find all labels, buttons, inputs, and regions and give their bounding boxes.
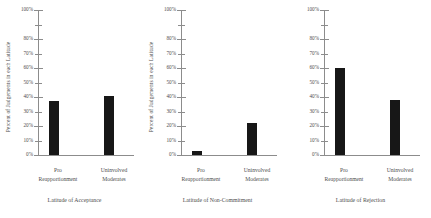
y-tick-label: 30% [166, 109, 176, 114]
y-tick-label: 60% [309, 65, 319, 70]
y-tick-mark [321, 25, 328, 26]
panel-caption-2: Latitude of Non-Commitment [149, 196, 286, 204]
category-label-line1: Uninvolved [244, 167, 270, 173]
category-label-line2: Reapportionment [30, 175, 86, 184]
y-tick-mark [35, 25, 42, 26]
y-tick-mark [320, 97, 329, 98]
y-tick-mark [321, 54, 328, 55]
y-tick-label: 20% [23, 123, 33, 128]
category-label-pro-reapportionment: Pro Reapportionment [30, 166, 86, 183]
category-label-line2: Reapportionment [316, 175, 372, 184]
y-tick-label: 70% [166, 51, 176, 56]
y-tick-label: 30% [23, 109, 33, 114]
category-label-line1: Pro [197, 167, 205, 173]
category-label-line2: Reapportionment [173, 175, 229, 184]
category-label-uninvolved-moderates: Uninvolved Moderates [372, 166, 428, 183]
category-label-line1: Pro [340, 167, 348, 173]
category-label-pro-reapportionment: Pro Reapportionment [316, 166, 372, 183]
category-label-pro-reapportionment: Pro Reapportionment [173, 166, 229, 183]
y-axis-title: Percent of Judgements in each Latitude [3, 12, 14, 162]
y-tick-label: 50% [166, 80, 176, 85]
y-tick-mark [321, 83, 328, 84]
y-tick-mark [34, 155, 43, 156]
y-tick-label: 10% [166, 138, 176, 143]
chart-panel-latitude-of-rejection: Percent of Judgements in each Latitude 1… [286, 0, 429, 218]
panel-caption-3: Latitude of Rejection [292, 196, 429, 204]
x-axis-line [324, 155, 420, 156]
bar-uninvolved-moderates [104, 96, 114, 155]
y-tick-label: 20% [166, 123, 176, 128]
y-tick-mark [178, 112, 185, 113]
y-tick-mark [177, 68, 186, 69]
category-label-uninvolved-moderates: Uninvolved Moderates [229, 166, 285, 183]
category-label-line2: Moderates [86, 175, 142, 184]
y-tick-mark [177, 155, 186, 156]
y-tick-label: 100% [164, 7, 176, 12]
y-tick-label: 70% [309, 51, 319, 56]
y-tick-mark [320, 155, 329, 156]
y-tick-label: 80% [166, 36, 176, 41]
y-tick-label: 30% [309, 109, 319, 114]
y-tick-mark [178, 83, 185, 84]
x-axis-category-labels-2: Pro Reapportionment Uninvolved Moderates [173, 166, 285, 183]
category-label-line1: Uninvolved [387, 167, 413, 173]
y-tick-mark [178, 54, 185, 55]
category-label-uninvolved-moderates: Uninvolved Moderates [86, 166, 142, 183]
plot-area-1: 100%80%70%60%50%40%30%20%10%0% [38, 10, 134, 156]
y-tick-label: 80% [309, 36, 319, 41]
plot-area-2: 100%80%70%60%50%40%30%20%10%0% [181, 10, 277, 156]
panel-caption-1: Latitude of Acceptance [6, 196, 143, 204]
y-tick-label: 0% [312, 152, 319, 157]
y-tick-mark [320, 68, 329, 69]
y-tick-label: 40% [23, 94, 33, 99]
y-tick-mark [177, 10, 186, 11]
three-panel-bar-chart-figure: Percent of Judgements in each Latitude 1… [0, 0, 431, 218]
y-tick-mark [34, 126, 43, 127]
y-tick-label: 50% [309, 80, 319, 85]
x-axis-category-labels-1: Pro Reapportionment Uninvolved Moderates [30, 166, 142, 183]
plot-area-3: 100%80%70%60%50%40%30%20%10%0% [324, 10, 420, 156]
category-label-line1: Pro [54, 167, 62, 173]
y-tick-label: 0% [169, 152, 176, 157]
y-tick-label: 10% [23, 138, 33, 143]
y-tick-mark [321, 141, 328, 142]
y-tick-mark [34, 68, 43, 69]
y-tick-mark [34, 97, 43, 98]
y-tick-mark [177, 39, 186, 40]
y-tick-mark [320, 39, 329, 40]
category-label-line1: Uninvolved [101, 167, 127, 173]
y-tick-label: 60% [166, 65, 176, 70]
y-tick-mark [177, 97, 186, 98]
y-tick-label: 100% [21, 7, 33, 12]
bar-pro-reapportionment [335, 68, 345, 155]
y-tick-label: 100% [307, 7, 319, 12]
y-tick-label: 80% [23, 36, 33, 41]
y-axis-title: Percent of Judgements in each Latitude [146, 12, 157, 162]
y-tick-mark [177, 126, 186, 127]
bar-uninvolved-moderates [390, 100, 400, 155]
category-label-line2: Moderates [372, 175, 428, 184]
y-tick-mark [35, 83, 42, 84]
y-tick-mark [321, 112, 328, 113]
y-tick-mark [34, 10, 43, 11]
y-tick-mark [320, 126, 329, 127]
y-tick-label: 40% [166, 94, 176, 99]
chart-panel-latitude-of-acceptance: Percent of Judgements in each Latitude 1… [0, 0, 143, 218]
y-tick-mark [178, 141, 185, 142]
x-axis-category-labels-3: Pro Reapportionment Uninvolved Moderates [316, 166, 428, 183]
y-tick-label: 70% [23, 51, 33, 56]
y-tick-mark [35, 54, 42, 55]
y-tick-mark [35, 141, 42, 142]
x-axis-line [181, 155, 277, 156]
chart-panel-latitude-of-non-commitment: Percent of Judgements in each Latitude 1… [143, 0, 286, 218]
y-tick-mark [34, 39, 43, 40]
y-tick-label: 0% [26, 152, 33, 157]
y-tick-label: 20% [309, 123, 319, 128]
y-tick-label: 10% [309, 138, 319, 143]
category-label-line2: Moderates [229, 175, 285, 184]
y-tick-label: 40% [309, 94, 319, 99]
y-tick-label: 50% [23, 80, 33, 85]
y-tick-mark [178, 25, 185, 26]
bar-uninvolved-moderates [247, 123, 257, 155]
bar-pro-reapportionment [49, 101, 59, 155]
